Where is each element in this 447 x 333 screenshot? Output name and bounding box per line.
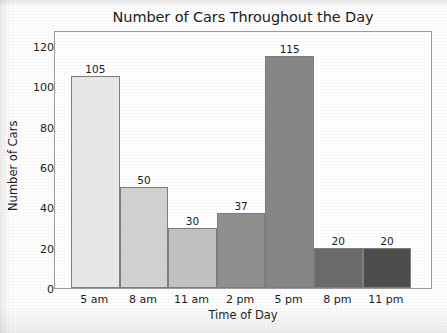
x-tick-label: 5 pm: [264, 293, 313, 306]
x-tick-label: 11 am: [167, 293, 216, 306]
bar-value-label: 37: [217, 200, 266, 212]
y-tick-label: 60: [24, 162, 54, 175]
x-axis-title: Time of Day: [54, 308, 432, 322]
bar: [363, 248, 412, 288]
y-tick-label: 100: [24, 81, 54, 94]
bar: [314, 248, 363, 288]
bar: [217, 213, 266, 288]
bar-value-label: 50: [120, 174, 169, 186]
y-tick-label: 40: [24, 202, 54, 215]
bar-value-label: 20: [363, 235, 412, 247]
bar-value-label: 30: [168, 215, 217, 227]
x-tick-label: 8 am: [119, 293, 168, 306]
bar-value-label: 115: [265, 43, 314, 55]
y-tick-label: 120: [24, 41, 54, 54]
x-tick-label: 2 pm: [216, 293, 265, 306]
bar-chart: Number of Cars Throughout the Day Number…: [0, 0, 447, 333]
y-axis-ticks: 020406080100120: [18, 0, 54, 333]
bar-value-label: 20: [314, 235, 363, 247]
bar: [265, 56, 314, 288]
bar: [71, 76, 120, 288]
y-tick-label: 80: [24, 121, 54, 134]
bar: [168, 228, 217, 289]
bar-value-label: 105: [71, 63, 120, 75]
bars-layer: 1055030371152020: [55, 32, 431, 288]
x-tick-label: 8 pm: [313, 293, 362, 306]
y-tick-label: 0: [24, 283, 54, 296]
plot-area: 1055030371152020: [54, 31, 432, 289]
y-tick-label: 20: [24, 242, 54, 255]
bar: [120, 187, 169, 288]
x-tick-label: 11 pm: [362, 293, 411, 306]
x-tick-label: 5 am: [70, 293, 119, 306]
chart-title: Number of Cars Throughout the Day: [54, 9, 432, 25]
